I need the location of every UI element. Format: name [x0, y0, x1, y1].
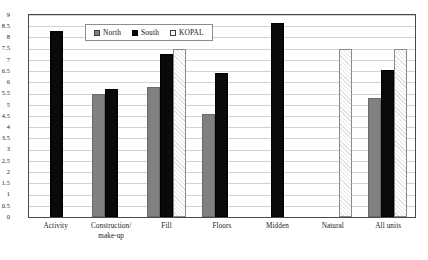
y-axis-tick-label: 1 — [0, 191, 10, 197]
y-axis-tick-label: 5.5 — [0, 90, 10, 96]
x-axis-category-labels: ActivityConstruction/make-upFillFloorsMi… — [28, 222, 416, 241]
bar-group — [305, 15, 360, 217]
y-axis-tick-label: 7.5 — [0, 45, 10, 51]
bar-group — [360, 15, 415, 217]
y-axis-tick-label: 4.5 — [0, 113, 10, 119]
bar-north — [368, 98, 381, 217]
legend: NorthSouthKOPAL — [85, 24, 213, 41]
y-axis-tick-label: 0.5 — [0, 203, 10, 209]
bar-south — [271, 23, 284, 217]
y-axis-tick-label: 6.5 — [0, 68, 10, 74]
x-axis-category-label: Fill — [139, 222, 194, 241]
x-axis-category-label-line1: Construction/ — [91, 222, 131, 230]
legend-item: South — [132, 29, 159, 36]
bar-group — [84, 15, 139, 217]
south-swatch-icon — [132, 30, 138, 36]
bar-chart: 98.587.576.565.554.543.532.521.510.50 No… — [0, 0, 428, 260]
x-axis-category-label-line1: Floors — [212, 222, 231, 230]
y-axis-tick-label: 2 — [0, 169, 10, 175]
x-axis-category-label: Activity — [28, 222, 83, 241]
bar-south — [160, 54, 173, 217]
y-axis-tick-label: 8 — [0, 34, 10, 40]
x-axis-category-label-line2: make-up — [83, 232, 138, 242]
bar-groups — [29, 15, 415, 217]
x-axis-category-label-line1: Natural — [322, 222, 344, 230]
legend-label: North — [103, 29, 121, 36]
bar-south — [105, 89, 118, 217]
y-axis-tick-label: 1.5 — [0, 180, 10, 186]
bar-kopal — [394, 49, 407, 217]
y-axis-tick-label: 7 — [0, 57, 10, 63]
legend-label: South — [141, 29, 159, 36]
y-axis-tick-label: 3 — [0, 146, 10, 152]
kopal-swatch-icon — [170, 30, 176, 36]
bar-group — [194, 15, 249, 217]
y-axis-tick-label: 3.5 — [0, 135, 10, 141]
y-axis-tick-label: 4 — [0, 124, 10, 130]
legend-item: North — [94, 29, 121, 36]
y-axis-tick-label: 5 — [0, 102, 10, 108]
legend-item: KOPAL — [170, 29, 204, 36]
bar-north — [202, 114, 215, 217]
plot-area — [29, 15, 415, 217]
north-swatch-icon — [94, 30, 100, 36]
gridline — [29, 217, 415, 218]
x-axis-category-label-line1: Fill — [161, 222, 171, 230]
bar-south — [50, 31, 63, 217]
y-axis-tick-label: 9 — [0, 12, 10, 18]
bar-north — [92, 94, 105, 217]
y-axis-tick-label: 0 — [0, 214, 10, 220]
bar-kopal — [173, 49, 186, 217]
y-axis-tick-label: 2.5 — [0, 158, 10, 164]
bar-kopal — [339, 49, 352, 217]
x-axis-category-label: Natural — [305, 222, 360, 241]
x-axis-category-label-line1: All units — [375, 222, 401, 230]
x-axis-category-label: Construction/make-up — [83, 222, 138, 241]
x-axis-category-label: All units — [361, 222, 416, 241]
x-axis-category-label: Midden — [250, 222, 305, 241]
legend-label: KOPAL — [179, 29, 204, 36]
y-axis-tick-label: 8.5 — [0, 23, 10, 29]
plot-frame — [28, 14, 416, 218]
bar-group — [139, 15, 194, 217]
bar-south — [381, 70, 394, 217]
bar-south — [215, 73, 228, 217]
x-axis-category-label-line1: Midden — [266, 222, 289, 230]
x-axis-category-label-line1: Activity — [44, 222, 68, 230]
bar-north — [147, 87, 160, 217]
y-axis-tick-label: 6 — [0, 79, 10, 85]
bar-group — [29, 15, 84, 217]
x-axis-category-label: Floors — [194, 222, 249, 241]
bar-group — [250, 15, 305, 217]
